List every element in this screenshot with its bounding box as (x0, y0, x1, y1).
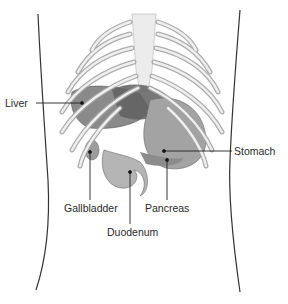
label-stomach: Stomach (234, 145, 275, 157)
sternum (132, 14, 156, 92)
label-gallbladder: Gallbladder (64, 202, 118, 214)
duodenum-organ (102, 150, 147, 196)
label-pancreas: Pancreas (145, 202, 189, 214)
label-liver: Liver (5, 97, 28, 109)
label-duodenum: Duodenum (107, 226, 158, 238)
